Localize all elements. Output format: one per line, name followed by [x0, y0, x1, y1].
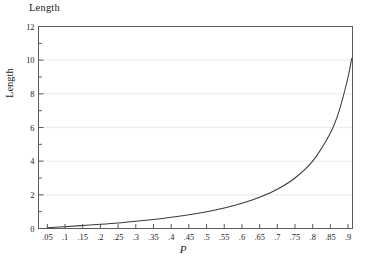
x-tick-label: .05	[42, 233, 52, 242]
y-tick-label: 2	[30, 191, 34, 200]
x-tick-label: .35	[148, 233, 158, 242]
y-tick-label: 0	[30, 225, 34, 234]
x-tick-label: .85	[325, 233, 335, 242]
y-tick-label: 4	[30, 157, 35, 166]
y-tick-label: 6	[30, 124, 34, 133]
x-tick-label: .2	[97, 233, 103, 242]
x-tick-label: .7	[274, 233, 280, 242]
x-tick-label: .75	[290, 233, 300, 242]
x-tick-label: .15	[77, 233, 87, 242]
x-tick-label: .9	[345, 233, 351, 242]
x-tick-label: .45	[184, 233, 194, 242]
x-tick-label: .5	[203, 233, 209, 242]
x-tick-label: .3	[133, 233, 139, 242]
chart-figure: Length Length P 024681012.05.1.15.2.25.3…	[0, 0, 366, 267]
y-tick-label: 8	[30, 90, 34, 99]
x-tick-label: .25	[113, 233, 123, 242]
y-tick-label: 12	[26, 23, 34, 32]
x-tick-label: .65	[254, 233, 264, 242]
y-tick-label: 10	[26, 56, 34, 65]
plot-area: 024681012.05.1.15.2.25.3.35.4.45.5.55.6.…	[0, 0, 366, 267]
x-tick-label: .4	[168, 233, 175, 242]
x-tick-label: .8	[310, 233, 316, 242]
x-tick-label: .55	[219, 233, 229, 242]
x-tick-label: .6	[239, 233, 245, 242]
x-tick-label: .1	[62, 233, 68, 242]
